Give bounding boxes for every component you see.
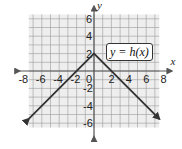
svg-text:4: 4 <box>86 30 92 42</box>
svg-text:y: y <box>96 0 102 11</box>
svg-text:6: 6 <box>143 73 149 85</box>
coordinate-plane: xy -8-6-4-202468-6-4-2246 <box>0 0 182 149</box>
svg-text:6: 6 <box>86 13 92 25</box>
svg-text:-6: -6 <box>83 117 93 129</box>
svg-text:-8: -8 <box>18 73 28 85</box>
function-label: y = h(x) <box>106 43 153 61</box>
svg-text:-6: -6 <box>36 73 46 85</box>
svg-text:2: 2 <box>108 73 114 85</box>
svg-text:-2: -2 <box>83 82 93 94</box>
svg-text:8: 8 <box>161 73 167 85</box>
svg-text:4: 4 <box>126 73 132 85</box>
svg-text:-4: -4 <box>83 100 93 112</box>
svg-text:x: x <box>170 55 176 67</box>
svg-text:-4: -4 <box>53 73 63 85</box>
